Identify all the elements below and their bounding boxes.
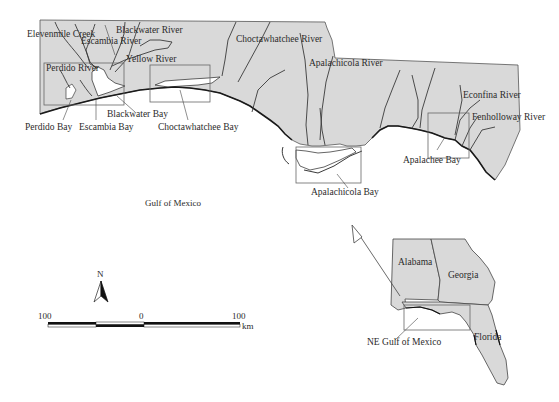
label-apalachee-bay: Apalachee Bay — [403, 155, 461, 165]
state-alabama — [391, 239, 440, 310]
scale-unit-label: km — [242, 321, 254, 331]
map-figure: Elevenmile Creek Escambia River Blackwat… — [0, 0, 559, 402]
label-yellow-river: Yellow River — [126, 54, 177, 64]
scale-center-label: 0 — [139, 311, 144, 321]
label-perdido-river: Perdido River — [46, 63, 100, 73]
label-perdido-bay: Perdido Bay — [25, 122, 72, 132]
label-gulf-of-mexico: Gulf of Mexico — [145, 198, 201, 208]
label-choctawhatchee-river: Choctawhatchee River — [236, 34, 323, 44]
label-georgia: Georgia — [448, 270, 479, 280]
scale-right-label: 100 — [232, 311, 246, 321]
label-escambia-bay: Escambia Bay — [79, 122, 134, 132]
north-arrow-icon — [94, 281, 101, 302]
apalachicola-bay-water — [296, 148, 356, 170]
label-econfina-river: Econfina River — [463, 90, 522, 100]
label-florida: Florida — [474, 332, 502, 342]
label-blackwater-bay: Blackwater Bay — [107, 109, 168, 119]
inset-map: Alabama Georgia Florida NE Gulf of Mexic… — [352, 225, 508, 385]
north-arrow: N — [94, 269, 108, 302]
label-alabama: Alabama — [398, 257, 433, 267]
label-blackwater-river: Blackwater River — [116, 25, 184, 35]
label-apalachicola-river: Apalachicola River — [309, 58, 383, 68]
label-apalachicola-bay: Apalachicola Bay — [311, 187, 379, 197]
label-fenholloway-river: Fenholloway River — [472, 112, 546, 122]
label-choctawhatchee-bay: Choctawhatchee Bay — [158, 122, 239, 132]
label-escambia-river: Escambia River — [81, 36, 142, 46]
scale-left-label: 100 — [38, 311, 52, 321]
label-ne-gulf-of-mexico: NE Gulf of Mexico — [367, 337, 441, 347]
scale-bar: 100 0 100 km — [38, 311, 254, 331]
north-arrow-label: N — [97, 269, 104, 279]
